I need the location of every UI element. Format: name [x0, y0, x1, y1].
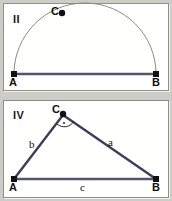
vertex-label-B: B [152, 77, 160, 88]
panel-IV: IV A B C b a c [3, 100, 169, 198]
side-label-a: a [108, 137, 113, 148]
vertex-marker-C [60, 111, 66, 117]
vertex-label-C: C [51, 6, 59, 17]
panel-II: II A B C [3, 3, 169, 91]
side-label-c: c [80, 182, 85, 193]
vertex-label-A: A [9, 77, 17, 88]
vertex-label-C: C [52, 104, 60, 115]
vertex-label-A: A [9, 182, 17, 193]
side-label-b: b [29, 139, 35, 150]
semicircle-arc [14, 3, 156, 74]
vertex-label-B: B [152, 182, 160, 193]
diagram-canvas: II A B C IV [0, 0, 172, 201]
figure-II-semicircle [4, 4, 168, 90]
side-b-segment-AC [14, 115, 63, 179]
vertex-marker-C [59, 10, 65, 16]
right-angle-dot-icon [63, 122, 65, 124]
